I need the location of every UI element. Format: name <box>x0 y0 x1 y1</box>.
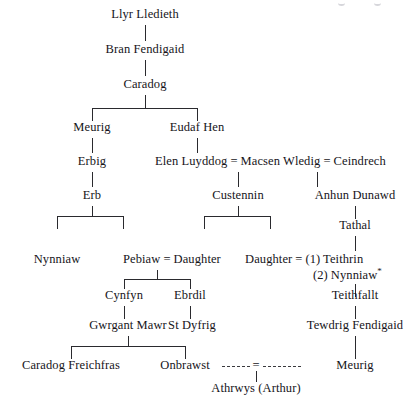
link-meurig-to-erbig <box>92 138 93 153</box>
node-anhun-dunawd: Anhun Dunawd <box>315 189 396 202</box>
node-meurig-top: Meurig <box>73 121 110 134</box>
link-pebiaw-marriage-drop <box>157 270 158 279</box>
link-bran-to-caradog <box>145 60 146 76</box>
node-athrwys-arthur: Athrwys (Arthur) <box>211 382 300 395</box>
node-macsen-wledig: Macsen Wledig <box>241 154 321 168</box>
link-elen-macsen-to-custennin <box>238 172 239 187</box>
link-eudaf-to-elen <box>197 138 198 153</box>
node-cynfyn: Cynfyn <box>105 289 143 302</box>
link-gwrgant-drop <box>128 336 129 346</box>
sibling-bar-meurig-eudaf <box>92 108 197 109</box>
node-teithrin: Teithrin <box>323 252 363 266</box>
node-ebrdil: Ebrdil <box>174 289 206 302</box>
link-custennin-drop <box>238 206 239 216</box>
link-bar-to-daughter <box>270 216 271 229</box>
node-nynniaw-star: Nynniaw <box>331 268 378 282</box>
link-erbig-to-erb <box>92 172 93 187</box>
cropped-glyph-artifact <box>374 0 381 6</box>
link-macsen-ceindrech-to-anhun <box>317 172 318 187</box>
marriage-order-first: (1) <box>305 252 320 266</box>
marriage-row-daughter-nynniaw: (2) Nynniaw* <box>313 269 382 282</box>
marriage-equals-icon: = <box>292 252 305 266</box>
node-caradog-freichfras: Caradog Freichfras <box>22 359 120 372</box>
link-tathal-to-teithrin <box>355 236 356 251</box>
sibling-bar-custennin-children <box>204 216 270 217</box>
node-llyr-lledieth: Llyr Lledieth <box>111 8 179 21</box>
node-daughter-of-custennin: Daughter <box>174 252 221 266</box>
marriage-equals-icon: = <box>160 252 173 266</box>
link-tewdrig-to-meurig <box>355 336 356 359</box>
link-llyr-to-bran <box>145 25 146 41</box>
family-tree-diagram: Llyr Lledieth Bran Fendigaid Caradog Meu… <box>0 0 408 400</box>
node-eudaf-hen: Eudaf Hen <box>170 121 225 134</box>
link-bar-to-pebiaw <box>123 216 124 229</box>
node-bran-fendigaid: Bran Fendigaid <box>106 43 185 56</box>
sibling-bar-nynniaw-pebiaw <box>57 216 123 217</box>
link-bar-to-nynniaw <box>57 216 58 229</box>
node-gwrgant-mawr: Gwrgant Mawr <box>89 319 167 332</box>
link-erb-drop <box>92 206 93 216</box>
node-elen-luyddog: Elen Luyddog <box>155 154 227 168</box>
node-pebiaw: Pebiaw <box>123 252 160 266</box>
footnote-asterisk-icon: * <box>377 266 382 276</box>
link-bar-to-custennin-child-left <box>204 216 205 229</box>
sibling-bar-cynfyn-ebrdil <box>124 279 190 280</box>
node-tathal: Tathal <box>339 219 371 232</box>
node-erb: Erb <box>83 189 101 202</box>
node-onbrawst: Onbrawst <box>160 359 209 372</box>
dashed-marriage-line-left <box>222 366 250 367</box>
node-st-dyfrig: St Dyfrig <box>168 319 216 332</box>
link-caradog-drop <box>145 95 146 108</box>
marriage-equals-icon: = <box>227 154 240 168</box>
node-erbig: Erbig <box>78 155 106 168</box>
sibling-bar-caradog-onbrawst <box>71 346 185 347</box>
node-teithfallt: Teithfallt <box>332 289 379 302</box>
marriage-row-pebiaw: Pebiaw=Daughter <box>123 253 221 266</box>
node-daughter-of-tathal-line: Daughter <box>245 252 292 266</box>
node-tewdrig-fendigaid: Tewdrig Fendigaid <box>307 319 403 332</box>
dashed-marriage-line-right <box>263 366 301 367</box>
marriage-order-second: (2) <box>313 268 328 282</box>
node-caradog: Caradog <box>123 78 166 91</box>
marriage-row-macsen: Elen Luyddog=Macsen Wledig=Ceindrech <box>155 155 386 168</box>
marriage-row-daughter-teithrin: Daughter=(1) Teithrin <box>245 253 363 266</box>
node-nynniaw: Nynniaw <box>34 253 81 266</box>
node-ceindrech: Ceindrech <box>334 154 386 168</box>
marriage-equals-icon: = <box>320 154 333 168</box>
node-meurig-bottom: Meurig <box>336 359 373 372</box>
cropped-glyph-artifact <box>338 0 345 6</box>
node-custennin: Custennin <box>212 189 264 202</box>
